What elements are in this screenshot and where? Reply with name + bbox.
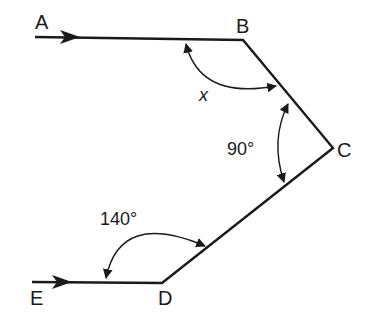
angle-label-90: 90°	[227, 139, 254, 159]
angle-90-arc	[278, 104, 288, 182]
point-label-d: D	[158, 287, 172, 309]
angle-x-arc	[186, 44, 276, 89]
angle-140-arc	[106, 234, 205, 278]
point-label-b: B	[236, 15, 249, 37]
angle-label-140: 140°	[100, 209, 137, 229]
angle-diagram: A B C D E x 90° 140°	[0, 0, 370, 322]
point-label-a: A	[35, 11, 49, 33]
point-label-c: C	[337, 139, 351, 161]
point-label-e: E	[30, 287, 43, 309]
polyline-path	[32, 37, 333, 283]
angle-label-x: x	[198, 85, 209, 105]
